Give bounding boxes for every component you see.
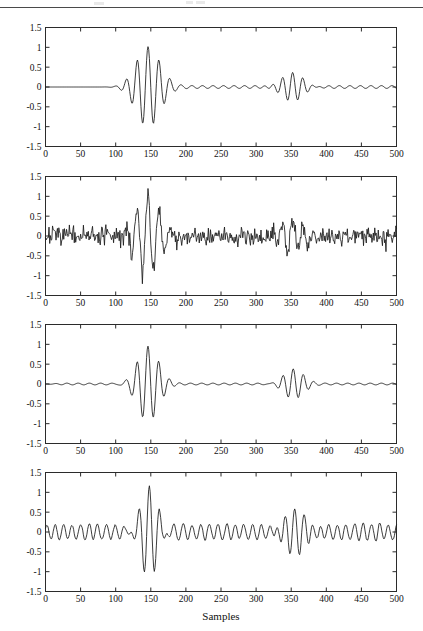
y-tick-label: -1.5	[26, 439, 41, 449]
y-tick-label: -0.5	[26, 547, 41, 557]
y-tick-label: 0	[37, 527, 42, 537]
x-tick-label: 250	[214, 298, 229, 308]
x-tick-label: 50	[76, 149, 86, 159]
y-tick-label: 1	[37, 340, 42, 350]
y-tick-label: -1	[34, 419, 42, 429]
y-tick-label: 1.5	[30, 23, 42, 33]
x-tick-label: 400	[319, 446, 334, 456]
x-tick-label: 300	[249, 298, 264, 308]
x-tick-label: 0	[43, 298, 48, 308]
x-tick-label: 50	[76, 594, 86, 604]
x-tick-label: 200	[179, 298, 194, 308]
x-tick-label: 400	[319, 594, 334, 604]
x-tick-label: 450	[354, 149, 369, 159]
x-tick-label: 350	[284, 298, 299, 308]
x-tick-label: 200	[179, 149, 194, 159]
page-artifact-marks	[0, 0, 423, 7]
y-tick-label: -1	[34, 567, 42, 577]
y-tick-label: -1.5	[26, 587, 41, 597]
y-tick-label: 0	[37, 379, 42, 389]
y-tick-label: -0.5	[26, 251, 41, 261]
x-tick-label: 100	[109, 298, 124, 308]
x-tick-label: 250	[214, 446, 229, 456]
signal-trace	[46, 47, 397, 124]
subplot-1-original-clean-signal: 0501001502002503003504004505001.510.50-0…	[26, 23, 403, 159]
y-tick-label: -0.5	[26, 399, 41, 409]
x-tick-label: 0	[43, 594, 48, 604]
signal-denoising-plot: 0501001502002503003504004505001.510.50-0…	[0, 0, 423, 631]
y-tick-label: -1.5	[26, 291, 41, 301]
x-tick-label: 400	[319, 298, 334, 308]
x-tick-label: 100	[109, 446, 124, 456]
x-tick-label: 450	[354, 298, 369, 308]
subplot-4-denoised-signal-residual-noise: 0501001502002503003504004505001.510.50-0…	[26, 468, 403, 622]
x-tick-label: 450	[354, 446, 369, 456]
y-tick-label: 0	[37, 82, 42, 92]
x-tick-label: 250	[214, 149, 229, 159]
y-tick-label: -1.5	[26, 142, 41, 152]
signal-trace	[46, 188, 397, 283]
x-tick-label: 200	[179, 594, 194, 604]
x-tick-label: 300	[249, 446, 264, 456]
x-tick-label: 150	[144, 298, 159, 308]
x-tick-label: 100	[109, 149, 124, 159]
y-tick-label: 1	[37, 488, 42, 498]
y-tick-label: 0	[37, 231, 42, 241]
x-tick-label: 0	[43, 446, 48, 456]
y-tick-label: -1	[34, 271, 42, 281]
y-tick-label: 1	[37, 43, 42, 53]
x-tick-label: 300	[249, 594, 264, 604]
y-tick-label: -0.5	[26, 102, 41, 112]
subplot-2-noisy-signal: 0501001502002503003504004505001.510.50-0…	[26, 172, 403, 308]
y-tick-label: 0.5	[30, 508, 42, 518]
x-tick-label: 50	[76, 298, 86, 308]
subplot-3-denoised-signal-hard-threshold: 0501001502002503003504004505001.510.50-0…	[26, 320, 403, 456]
x-tick-label: 150	[144, 149, 159, 159]
y-tick-label: 0.5	[30, 212, 42, 222]
y-tick-label: 1.5	[30, 320, 42, 330]
x-tick-label: 500	[389, 298, 404, 308]
x-tick-label: 300	[249, 149, 264, 159]
x-tick-label: 200	[179, 446, 194, 456]
y-tick-label: 1.5	[30, 172, 42, 182]
x-axis-label: Samples	[202, 610, 239, 622]
x-tick-label: 350	[284, 149, 299, 159]
x-tick-label: 100	[109, 594, 124, 604]
signal-trace	[46, 486, 397, 572]
x-tick-label: 50	[76, 446, 86, 456]
x-tick-label: 400	[319, 149, 334, 159]
figure-canvas: 0501001502002503003504004505001.510.50-0…	[0, 0, 423, 631]
x-tick-label: 500	[389, 594, 404, 604]
y-tick-label: 1	[37, 192, 42, 202]
x-tick-label: 150	[144, 446, 159, 456]
y-tick-label: 1.5	[30, 468, 42, 478]
x-tick-label: 500	[389, 149, 404, 159]
signal-trace	[46, 346, 397, 417]
x-tick-label: 500	[389, 446, 404, 456]
axes-box	[46, 177, 397, 296]
x-tick-label: 150	[144, 594, 159, 604]
x-tick-label: 0	[43, 149, 48, 159]
x-tick-label: 350	[284, 594, 299, 604]
x-tick-label: 450	[354, 594, 369, 604]
y-tick-label: 0.5	[30, 360, 42, 370]
x-tick-label: 250	[214, 594, 229, 604]
y-tick-label: 0.5	[30, 63, 42, 73]
page-horizontal-rule	[0, 7, 423, 8]
y-tick-label: -1	[34, 122, 42, 132]
x-tick-label: 350	[284, 446, 299, 456]
